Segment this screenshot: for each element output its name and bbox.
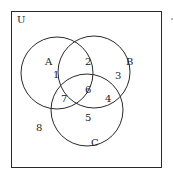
region-b-c: 4 bbox=[105, 93, 111, 104]
region-b-only: 3 bbox=[115, 70, 121, 81]
region-c-only: 5 bbox=[85, 112, 91, 123]
venn-diagram: U A B C 1 2 3 4 5 6 7 8 bbox=[0, 0, 173, 178]
region-a-c: 7 bbox=[61, 93, 67, 104]
stray-dot bbox=[171, 18, 173, 20]
set-label-a: A bbox=[44, 56, 53, 67]
set-label-b: B bbox=[126, 56, 133, 67]
region-a-only: 1 bbox=[53, 69, 59, 80]
region-a-b-c: 6 bbox=[85, 84, 91, 95]
set-label-c: C bbox=[91, 137, 99, 148]
region-outside: 8 bbox=[36, 122, 42, 133]
universe-label: U bbox=[17, 14, 25, 25]
region-a-b: 2 bbox=[85, 56, 91, 67]
